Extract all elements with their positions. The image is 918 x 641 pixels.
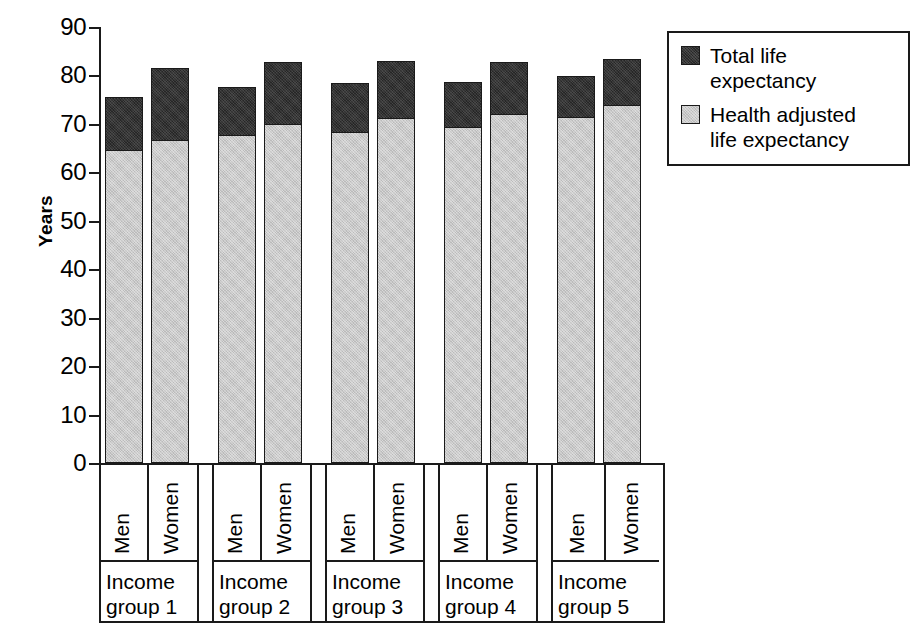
x-label-men-3: Men [327,465,375,560]
legend-item-total: Total life expectancy [681,43,898,93]
x-group-3-sex-row: Men Women [327,465,423,562]
x-group-label-4-line1: Income [445,569,532,594]
bar-segment-health-adjusted-life-expectancy [332,132,368,462]
bar-segment-health-adjusted-life-expectancy [378,118,414,462]
y-tick-label-90: 90 [28,15,86,39]
x-group-label-1-line1: Income [106,569,193,594]
x-group-2: Men Women Income group 2 [214,465,312,621]
x-label-men-5: Men [553,465,606,560]
x-group-spacer-1 [199,465,214,621]
x-group-label-4: Income group 4 [440,562,536,621]
x-label-men-3-text: Men [337,513,358,554]
bar-income-group-1-men [105,97,143,463]
bar-segment-health-adjusted-life-expectancy [152,140,188,462]
x-group-label-5-line1: Income [558,569,655,594]
x-group-spacer-4 [538,465,553,621]
x-label-women-4: Women [488,465,536,560]
bar-segment-total-life-expectancy [558,77,594,117]
x-group-label-4-line2: group 4 [445,594,532,619]
x-label-men-4-text: Men [450,513,471,554]
bar-segment-total-life-expectancy [219,88,255,135]
x-group-1-sex-row: Men Women [101,465,197,562]
x-axis-label-table: Men Women Income group 1 Men Women Incom… [99,463,665,623]
x-group-4-sex-row: Men Women [440,465,536,562]
x-label-women-5: Women [606,465,659,560]
legend-item-hale: Health adjusted life expectancy [681,102,898,152]
bar-segment-health-adjusted-life-expectancy [106,150,142,462]
x-label-men-1-text: Men [111,513,132,554]
y-tick-label-50: 50 [28,209,86,233]
bar-income-group-3-men [331,83,369,463]
x-label-women-3: Women [375,465,423,560]
x-group-label-2-line2: group 2 [219,594,306,619]
bar-segment-health-adjusted-life-expectancy [219,135,255,462]
bar-income-group-3-women [377,61,415,463]
x-label-men-5-text: Men [566,513,587,554]
x-label-women-3-text: Women [386,482,407,554]
x-group-label-2: Income group 2 [214,562,310,621]
x-group-label-5-line2: group 5 [558,594,655,619]
y-tick-label-30: 30 [28,306,86,330]
x-label-women-1: Women [149,465,197,560]
bar-income-group-1-women [151,68,189,463]
bar-income-group-2-men [218,87,256,463]
legend-label-total: Total life expectancy [710,43,898,93]
bar-income-group-4-men [444,82,482,463]
y-tick-label-40: 40 [28,257,86,281]
bar-segment-health-adjusted-life-expectancy [604,105,640,462]
x-group-3: Men Women Income group 3 [327,465,425,621]
x-group-spacer-3 [425,465,440,621]
x-group-label-3-line1: Income [332,569,419,594]
x-group-label-1: Income group 1 [101,562,197,621]
dark-hatched-swatch-icon [681,46,700,65]
bar-segment-total-life-expectancy [332,84,368,132]
bar-segment-health-adjusted-life-expectancy [491,114,527,462]
x-label-women-2-text: Women [273,482,294,554]
x-label-men-2: Men [214,465,262,560]
x-group-label-1-line2: group 1 [106,594,193,619]
bar-segment-health-adjusted-life-expectancy [265,124,301,462]
y-tick-label-10: 10 [28,403,86,427]
x-group-5-sex-row: Men Women [553,465,659,562]
x-group-label-3-line2: group 3 [332,594,419,619]
y-tick-label-60: 60 [28,160,86,184]
bar-income-group-5-men [557,76,595,463]
x-group-2-sex-row: Men Women [214,465,310,562]
x-group-label-3: Income group 3 [327,562,423,621]
bar-segment-health-adjusted-life-expectancy [558,117,594,462]
x-group-label-5: Income group 5 [553,562,659,621]
bar-income-group-5-women [603,59,641,463]
bar-segment-total-life-expectancy [445,83,481,127]
bar-segment-total-life-expectancy [491,63,527,114]
y-tick-label-70: 70 [28,112,86,136]
bar-segment-total-life-expectancy [378,62,414,118]
bar-segment-health-adjusted-life-expectancy [445,127,481,462]
x-label-men-1: Men [101,465,149,560]
bar-income-group-4-women [490,62,528,463]
x-group-1: Men Women Income group 1 [101,465,199,621]
x-group-5: Men Women Income group 5 [553,465,659,621]
x-group-spacer-2 [312,465,327,621]
chart-container: Years 90 80 70 60 50 40 30 20 10 0 Men W… [0,0,918,641]
bar-segment-total-life-expectancy [152,69,188,141]
x-group-label-2-line1: Income [219,569,306,594]
x-label-men-4: Men [440,465,488,560]
chart-legend: Total life expectancy Health adjusted li… [667,31,910,166]
x-label-women-2: Women [262,465,310,560]
plot-area [99,27,665,463]
x-label-women-5-text: Women [620,482,641,554]
bar-segment-total-life-expectancy [106,98,142,150]
x-label-women-4-text: Women [499,482,520,554]
x-group-4: Men Women Income group 4 [440,465,538,621]
legend-label-hale: Health adjusted life expectancy [710,102,856,152]
bar-income-group-2-women [264,62,302,463]
y-tick-label-20: 20 [28,354,86,378]
bar-segment-total-life-expectancy [604,60,640,105]
bar-segment-total-life-expectancy [265,63,301,124]
y-tick-label-80: 80 [28,63,86,87]
light-gray-swatch-icon [681,105,700,124]
x-label-men-2-text: Men [224,513,245,554]
y-tick-label-0: 0 [28,451,86,475]
x-label-women-1-text: Women [160,482,181,554]
